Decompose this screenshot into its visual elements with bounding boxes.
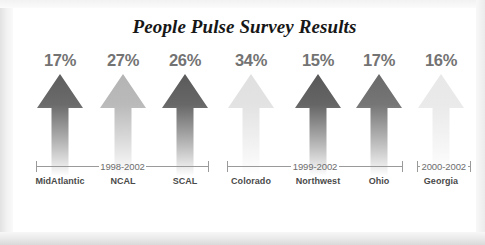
bracket-label: 1998-2002 <box>99 161 147 172</box>
frame-edge-left <box>0 0 13 245</box>
frame-edge-right <box>476 0 485 245</box>
arrow-column-midatlantic: 17%MidAtlantic <box>29 50 91 232</box>
bracket-label: 1999-2002 <box>291 161 339 172</box>
value-label-ncal: 27% <box>92 50 154 70</box>
arrow-column-ncal: 27%NCAL <box>92 50 154 232</box>
value-label-northwest: 15% <box>287 50 349 70</box>
value-label-ohio: 17% <box>348 50 410 70</box>
bracket-cap-right <box>402 161 403 172</box>
value-label-colorado: 34% <box>220 50 282 70</box>
bracket-rule-left <box>37 166 99 167</box>
plot-area: 17%MidAtlantic27%NCAL26%SCAL34%Colorado1… <box>13 50 476 232</box>
chart-canvas: People Pulse Survey Results 17%MidAtlant… <box>13 8 476 232</box>
range-bracket-group: 1998-20021999-20022000-2002 <box>13 156 476 180</box>
bracket-rule-left <box>228 166 291 167</box>
bracket-cap-right <box>470 161 471 172</box>
bracket-label: 2000-2002 <box>420 161 468 172</box>
bracket-cap-right <box>208 161 209 172</box>
frame-edge-bottom <box>0 232 485 245</box>
chart-title: People Pulse Survey Results <box>13 16 476 38</box>
value-label-scal: 26% <box>154 50 216 70</box>
bracket-rule-right <box>339 166 402 167</box>
arrow-column-georgia: 16%Georgia <box>410 50 472 232</box>
range-bracket-1999-2002: 1999-2002 <box>227 156 403 176</box>
arrow-column-colorado: 34%Colorado <box>220 50 282 232</box>
value-label-midatlantic: 17% <box>29 50 91 70</box>
frame-edge-top <box>0 0 485 8</box>
arrow-column-ohio: 17%Ohio <box>348 50 410 232</box>
chart-frame: People Pulse Survey Results 17%MidAtlant… <box>0 0 485 245</box>
range-bracket-1998-2002: 1998-2002 <box>36 156 209 176</box>
arrow-column-northwest: 15%Northwest <box>287 50 349 232</box>
arrow-column-scal: 26%SCAL <box>154 50 216 232</box>
value-label-georgia: 16% <box>410 50 472 70</box>
range-bracket-2000-2002: 2000-2002 <box>417 156 465 176</box>
bracket-rule-right <box>146 166 208 167</box>
